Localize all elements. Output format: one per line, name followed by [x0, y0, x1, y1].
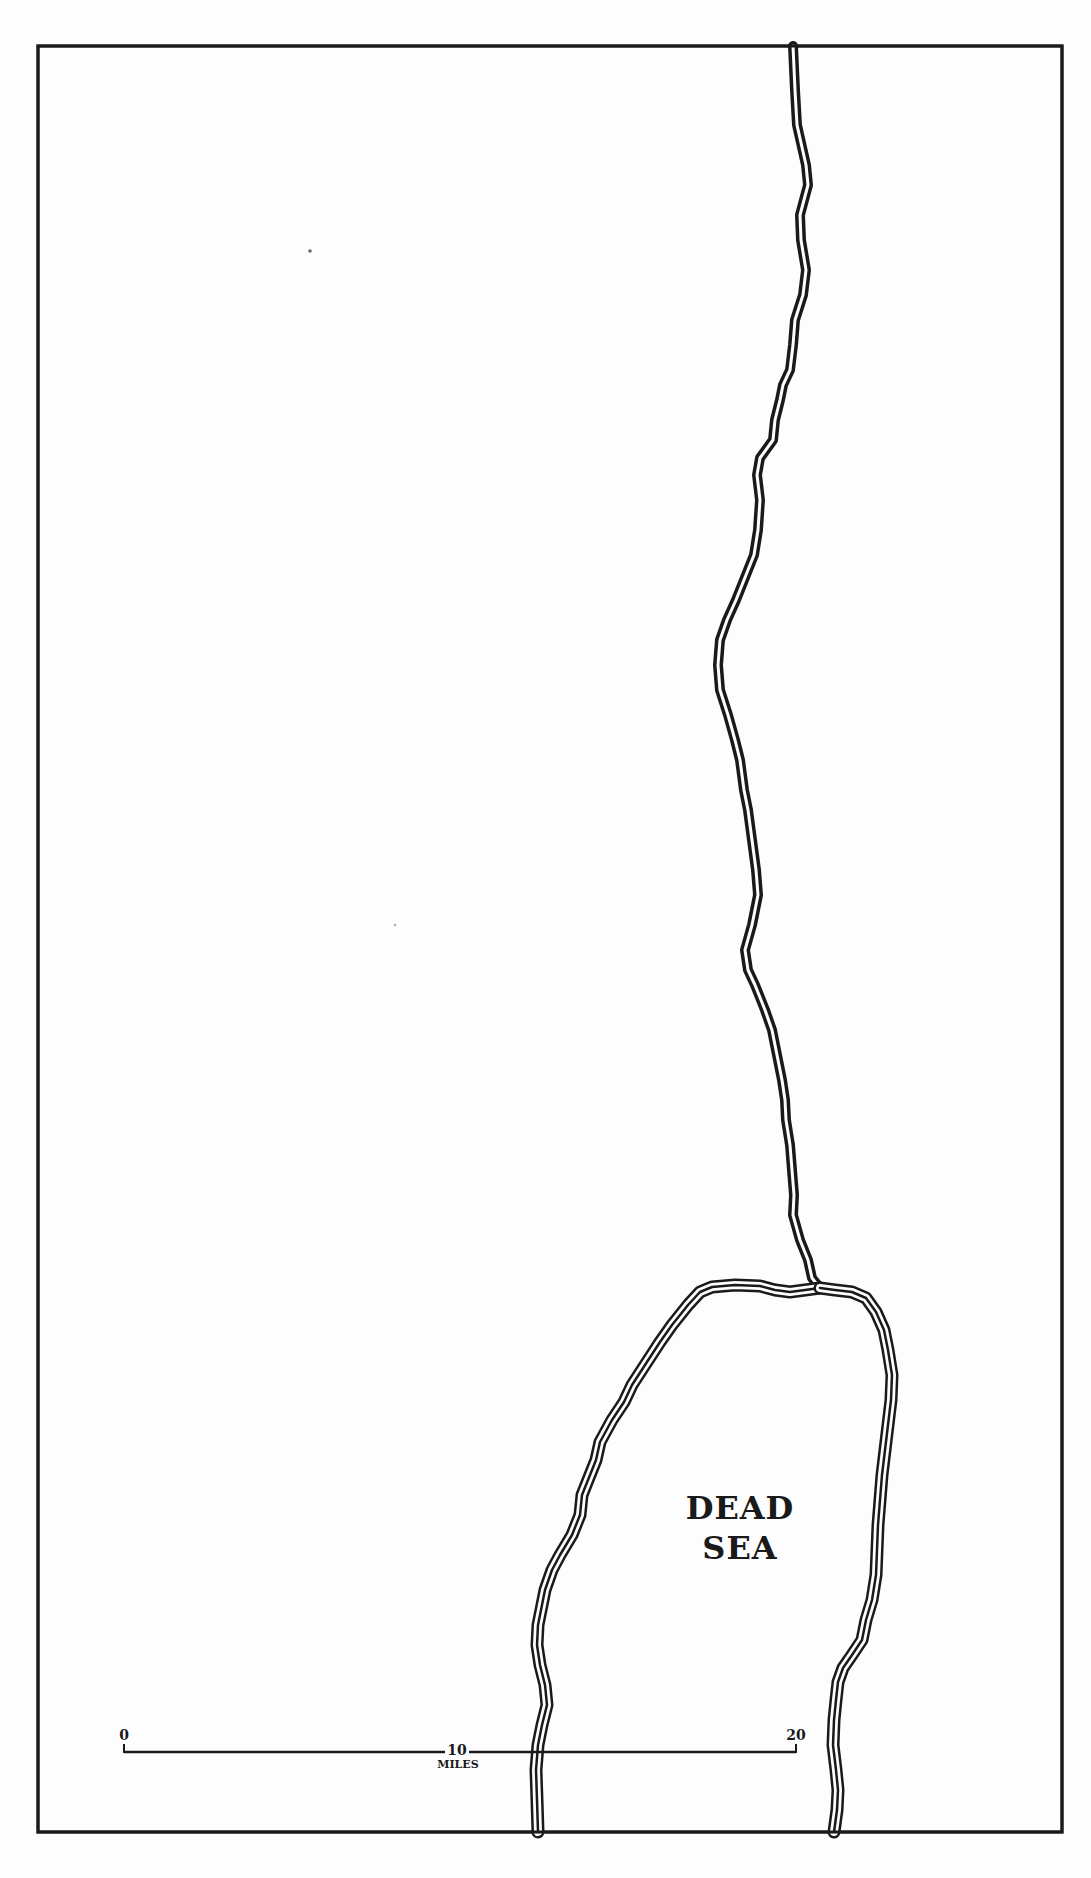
scale-label-0: 0 [117, 1727, 131, 1743]
scale-label-10: 10 [445, 1742, 469, 1758]
scale-unit-label: MILES [428, 1758, 488, 1771]
dead-sea-label: DEAD SEA [660, 1488, 820, 1568]
map-canvas [0, 0, 1091, 1878]
map-speck [394, 924, 396, 926]
dead-sea-label-line1: DEAD [660, 1488, 820, 1528]
scale-label-20: 20 [784, 1727, 808, 1743]
dead-sea-label-line2: SEA [660, 1528, 820, 1568]
map-speck [308, 249, 312, 253]
